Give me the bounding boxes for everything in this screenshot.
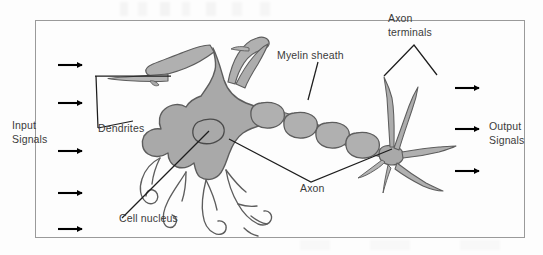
myelin-sheath (251, 102, 380, 158)
myelin-segment-3 (316, 122, 350, 148)
label-cell-nucleus: Cell nucleus (119, 212, 178, 225)
neuron-diagram (0, 0, 543, 255)
leader-dendrites-stem (96, 76, 133, 128)
label-axon-terminals-line1: Axon (388, 12, 413, 25)
myelin-segment-2 (284, 112, 318, 138)
leader-axon-terminals (384, 45, 437, 76)
label-output-signals-line2: Signals (489, 134, 525, 147)
input-arrows (58, 65, 82, 229)
leader-myelin (308, 62, 318, 100)
myelin-segment-4 (346, 132, 380, 158)
label-axon: Axon (300, 182, 325, 195)
label-dendrites: Dendrites (98, 122, 144, 135)
label-axon-terminals-line2: terminals (388, 26, 432, 39)
label-input-signals-line2: Signals (12, 133, 48, 146)
label-output-signals-line1: Output (489, 120, 521, 133)
label-myelin-sheath: Myelin sheath (277, 49, 344, 62)
dendrites-upper (108, 37, 269, 88)
label-input-signals-line1: Input (12, 119, 36, 132)
output-arrows (455, 88, 479, 171)
myelin-segment-1 (251, 102, 285, 128)
figure-canvas: Input Signals Output Signals Dendrites C… (0, 0, 543, 255)
